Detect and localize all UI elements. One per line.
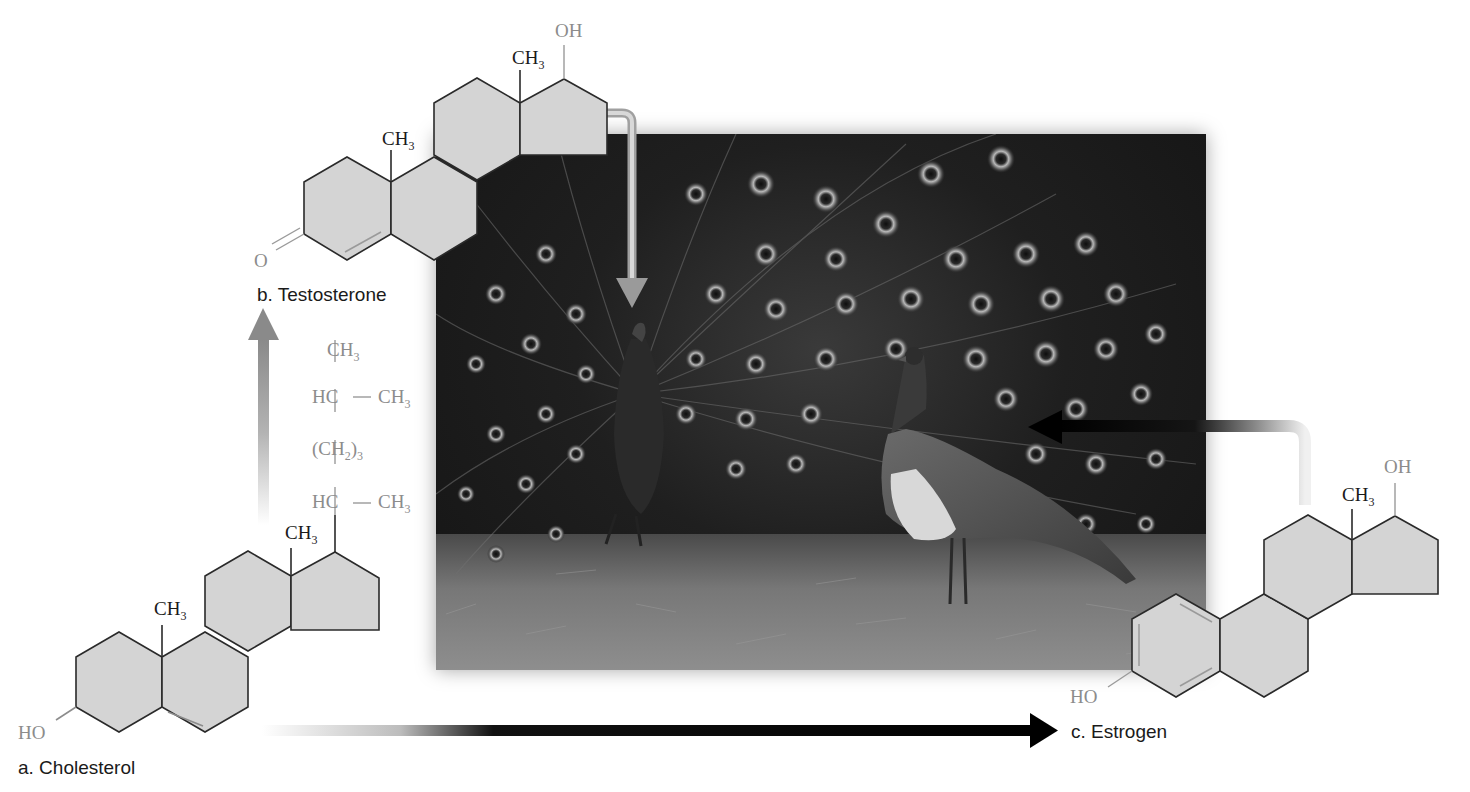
chemical-labels: O CH3 CH3 OH CH3 HC CH3 (CH2)3 HC CH3 CH… <box>0 0 1470 792</box>
testosterone-oh: OH <box>555 20 582 42</box>
testosterone-ch3-a: CH3 <box>382 128 414 154</box>
label-testosterone: b. Testosterone <box>257 284 387 306</box>
estrogen-ho: HO <box>1070 686 1097 708</box>
side-chain-ch3-top: CH3 <box>327 339 359 365</box>
cholesterol-ch3-a: CH3 <box>154 598 186 624</box>
testosterone-carbonyl-o: O <box>254 250 268 272</box>
cholesterol-ho: HO <box>18 722 45 744</box>
side-chain-ch2-3: (CH2)3 <box>312 438 363 464</box>
cholesterol-ch3-b: CH3 <box>285 522 317 548</box>
estrogen-oh: OH <box>1384 456 1411 478</box>
side-chain-ch3-2: CH3 <box>378 491 410 517</box>
label-cholesterol: a. Cholesterol <box>18 757 135 779</box>
side-chain-ch3-1: CH3 <box>378 386 410 412</box>
side-chain-hc-2: HC <box>312 491 338 513</box>
testosterone-ch3-b: CH3 <box>512 47 544 73</box>
label-estrogen: c. Estrogen <box>1071 721 1167 743</box>
side-chain-hc-1: HC <box>312 386 338 408</box>
estrogen-ch3: CH3 <box>1342 484 1374 510</box>
